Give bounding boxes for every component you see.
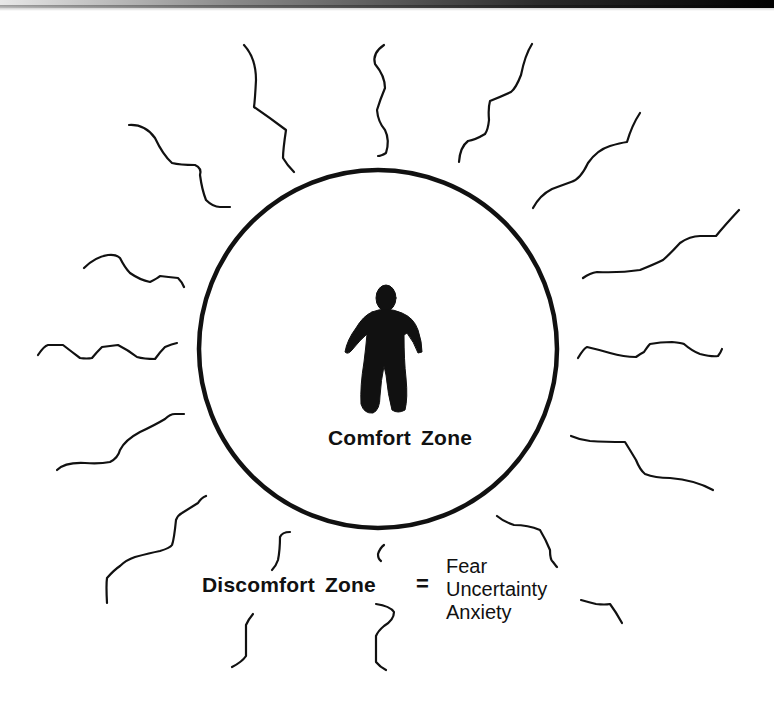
emotion-uncertainty: Uncertainty	[446, 578, 547, 601]
comfort-zone-diagram	[0, 0, 774, 712]
equals-sign: =	[416, 571, 429, 597]
discomfort-zone-label: Discomfort Zone	[202, 573, 376, 597]
squiggle-9	[57, 414, 184, 470]
emotion-fear: Fear	[446, 555, 547, 578]
squiggle-14	[376, 604, 394, 670]
squiggle-6	[583, 210, 739, 278]
squiggle-10	[107, 496, 207, 603]
squiggle-13	[232, 614, 253, 667]
squiggle-7	[84, 255, 184, 287]
squiggle-12	[378, 545, 384, 561]
emotion-anxiety: Anxiety	[446, 601, 547, 624]
squiggle-4	[459, 44, 532, 162]
squiggle-17	[578, 342, 722, 358]
squiggle-8	[38, 343, 177, 359]
squiggle-3	[374, 45, 387, 156]
squiggle-1	[244, 45, 294, 172]
comfort-zone-label: Comfort Zone	[328, 426, 472, 450]
squiggle-18	[571, 436, 713, 490]
person-silhouette-icon	[345, 285, 422, 413]
squiggle-2	[129, 125, 230, 207]
squiggle-16	[581, 600, 622, 623]
emotions-list: Fear Uncertainty Anxiety	[446, 555, 547, 624]
squiggle-5	[533, 113, 640, 208]
squiggle-11	[272, 532, 290, 570]
